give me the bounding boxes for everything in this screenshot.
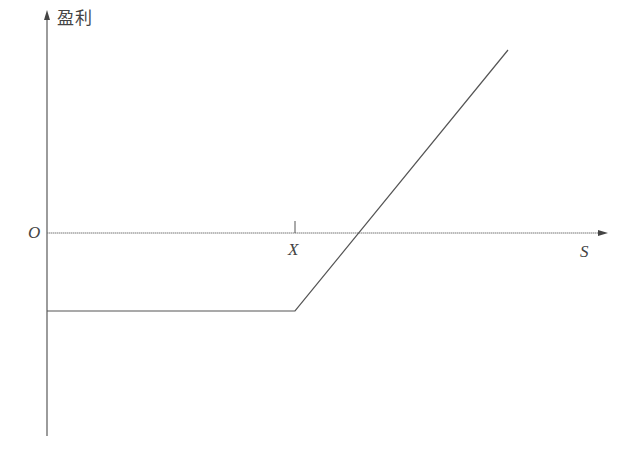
origin-label: O — [28, 223, 40, 243]
y-axis-arrow-icon — [44, 10, 50, 20]
strike-label: X — [288, 240, 298, 260]
x-axis-label: S — [580, 242, 589, 262]
payoff-line — [47, 50, 508, 311]
x-axis-arrow-icon — [598, 230, 608, 236]
payoff-chart — [0, 0, 618, 449]
y-axis-label: 盈利 — [57, 4, 93, 29]
